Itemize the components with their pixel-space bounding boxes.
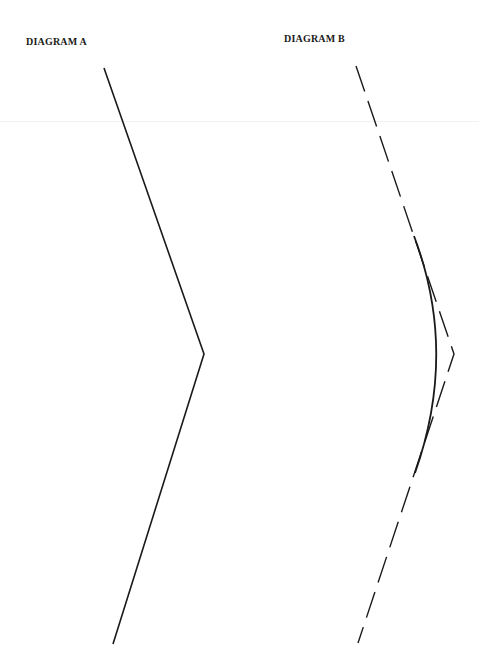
diagram-a-angle <box>104 68 204 644</box>
diagram-canvas <box>0 0 479 667</box>
diagram-b-curve <box>414 236 436 473</box>
diagram-b-dashed-angle <box>356 66 454 643</box>
